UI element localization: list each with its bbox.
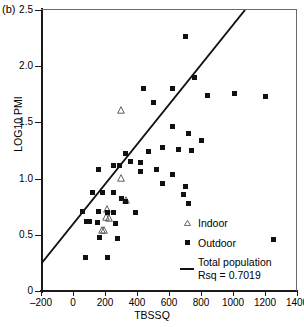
x-tick-mark xyxy=(201,291,202,296)
data-point-outdoor xyxy=(146,149,151,154)
data-point-outdoor xyxy=(95,220,100,225)
data-point-outdoor xyxy=(128,159,133,164)
data-point-outdoor xyxy=(83,255,88,260)
data-point-outdoor xyxy=(90,190,95,195)
data-point-outdoor xyxy=(138,160,143,165)
y-tick-label: 1.0 xyxy=(2,173,33,184)
data-point-outdoor xyxy=(96,167,101,172)
legend-item-indoor: Indoor xyxy=(178,218,272,229)
y-tick-label: 2.5 xyxy=(2,4,33,15)
y-tick-label: 2.0 xyxy=(2,60,33,71)
square-icon xyxy=(178,240,196,245)
data-point-outdoor xyxy=(183,184,188,189)
data-point-outdoor xyxy=(87,219,92,224)
legend-rsq-value: Rsq = 0.7019 xyxy=(196,270,272,281)
data-point-outdoor xyxy=(186,131,191,136)
data-point-outdoor xyxy=(113,221,118,226)
y-tick-label: 0 xyxy=(2,285,33,296)
data-point-outdoor xyxy=(100,190,105,195)
x-tick-mark xyxy=(41,291,42,296)
legend-label-total-population: Total population xyxy=(196,257,272,268)
data-point-outdoor xyxy=(151,100,156,105)
y-tick-label: 1.5 xyxy=(2,116,33,127)
data-point-outdoor xyxy=(176,147,181,152)
data-point-outdoor xyxy=(123,199,128,204)
data-point-outdoor xyxy=(160,181,165,186)
data-point-outdoor xyxy=(199,138,204,143)
x-tick-mark xyxy=(137,291,138,296)
chart-container: (b) LOG10 PMI TBSSQ 00.51.01.52.02.5 –20… xyxy=(0,0,304,327)
data-point-outdoor xyxy=(232,91,237,96)
data-point-outdoor xyxy=(170,124,175,129)
data-point-outdoor xyxy=(186,201,191,206)
x-tick-mark xyxy=(105,291,106,296)
data-point-indoor xyxy=(117,168,125,186)
x-tick-mark xyxy=(169,291,170,296)
data-point-outdoor xyxy=(105,255,110,260)
data-point-outdoor xyxy=(133,210,138,215)
x-tick-mark xyxy=(73,291,74,296)
data-point-outdoor xyxy=(111,210,116,215)
data-point-outdoor xyxy=(117,163,122,168)
legend-label-indoor: Indoor xyxy=(196,218,228,229)
data-point-outdoor xyxy=(97,235,102,240)
data-point-outdoor xyxy=(170,86,175,91)
data-point-outdoor xyxy=(123,151,128,156)
data-point-outdoor xyxy=(205,93,210,98)
data-point-outdoor xyxy=(96,209,101,214)
data-point-outdoor xyxy=(263,94,268,99)
chart-legend: Indoor Outdoor Total population Rsq = 0.… xyxy=(178,218,272,289)
x-axis-label: TBSSQ xyxy=(0,309,304,321)
triangle-icon xyxy=(178,220,196,226)
data-point-outdoor xyxy=(170,172,175,177)
data-point-outdoor xyxy=(183,34,188,39)
data-point-outdoor xyxy=(189,148,194,153)
y-tick-label: 0.5 xyxy=(2,229,33,240)
data-point-outdoor xyxy=(80,209,85,214)
data-point-outdoor xyxy=(111,190,116,195)
legend-label-outdoor: Outdoor xyxy=(196,238,236,249)
x-tick-label: 1400 xyxy=(277,297,304,308)
x-tick-mark xyxy=(233,291,234,296)
legend-item-outdoor: Outdoor xyxy=(178,238,272,249)
x-tick-mark xyxy=(265,291,266,296)
data-point-outdoor xyxy=(111,163,116,168)
data-point-outdoor xyxy=(105,210,110,215)
line-icon xyxy=(178,268,196,270)
data-point-outdoor xyxy=(181,192,186,197)
data-point-indoor xyxy=(117,100,125,118)
x-tick-mark xyxy=(297,291,298,296)
data-point-outdoor xyxy=(154,167,159,172)
data-point-outdoor xyxy=(160,145,165,150)
data-point-outdoor xyxy=(138,169,143,174)
data-point-outdoor xyxy=(141,86,146,91)
data-point-outdoor xyxy=(192,75,197,80)
legend-item-total-population: Total population Rsq = 0.7019 xyxy=(178,257,272,280)
data-point-outdoor xyxy=(115,236,120,241)
